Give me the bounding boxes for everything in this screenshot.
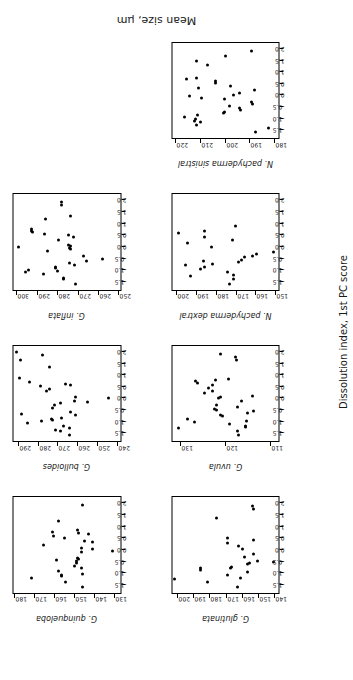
y-tick-label: 180	[14, 596, 26, 602]
y-axis: 110120130	[171, 443, 280, 451]
x-tick-label: 2.0	[116, 349, 126, 355]
y-tick-label-wrap: 130	[114, 599, 115, 600]
data-point	[198, 567, 201, 570]
y-tick-label: 140	[94, 596, 106, 602]
y-tick-label: 280	[38, 445, 50, 451]
x-tick-label: -1.5	[114, 279, 126, 285]
data-point	[214, 82, 217, 85]
y-tick-label-wrap: 190	[249, 145, 250, 146]
data-point	[210, 245, 213, 248]
data-point	[67, 262, 70, 265]
data-point	[84, 259, 87, 262]
y-tick-label-wrap: 270	[78, 296, 79, 297]
x-tick-label: -1.0	[114, 570, 126, 576]
data-point	[197, 87, 200, 90]
data-point	[176, 231, 179, 234]
x-tick-label-wrap: 0.5	[284, 83, 285, 84]
data-point	[52, 404, 55, 407]
data-point	[244, 424, 247, 427]
y-tick-label-wrap: 140	[94, 599, 95, 600]
x-tick-label: -1.5	[114, 430, 126, 436]
x-axis: -1.5-1.0-0.50.00.51.01.52.0	[279, 42, 301, 140]
x-tick-label: 0.0	[274, 92, 284, 98]
data-point	[69, 214, 72, 217]
data-point	[243, 556, 246, 559]
panel-title: N. pachyderma dextral	[179, 311, 271, 319]
data-point	[246, 412, 249, 415]
y-tick-label: 200	[225, 142, 237, 148]
x-tick-label: 1.5	[274, 209, 284, 215]
scatter-panel: N. pachyderma sinistral180190200210220-1…	[169, 40, 302, 170]
panel-title-wrap: G. bulloides	[12, 461, 121, 473]
data-point	[267, 127, 270, 130]
data-point	[39, 385, 42, 388]
data-point	[227, 377, 230, 380]
x-tick-label-wrap: -1.0	[284, 421, 285, 422]
data-point	[68, 384, 71, 387]
y-tick-label-wrap: 180	[216, 296, 217, 297]
x-tick-label-wrap: -1.0	[126, 421, 127, 422]
data-point	[239, 576, 242, 579]
x-tick-label-wrap: 2.0	[284, 502, 285, 503]
x-axis: -1.5-1.0-0.50.00.51.01.52.0	[121, 194, 143, 292]
y-tick-label: 260	[77, 445, 89, 451]
x-tick-label: 0.5	[274, 384, 284, 390]
data-point	[67, 434, 70, 437]
x-tick-label-wrap: 0.5	[284, 537, 285, 538]
data-point	[203, 236, 206, 239]
y-tick-label: 270	[78, 293, 90, 299]
data-point	[69, 411, 72, 414]
y-tick-label: 130	[180, 445, 192, 451]
data-point	[231, 278, 234, 281]
data-point	[202, 259, 205, 262]
y-tick-label: 200	[176, 293, 188, 299]
data-point	[44, 218, 47, 221]
data-point	[211, 262, 214, 265]
panel-title: G. inflata	[48, 311, 85, 319]
data-point	[232, 273, 235, 276]
data-point	[224, 54, 227, 57]
data-point	[176, 427, 179, 430]
y-tick-label: 130	[114, 596, 126, 602]
data-point	[51, 534, 54, 537]
y-tick-label-wrap: 200	[177, 599, 178, 600]
x-tick-label: 2.0	[116, 500, 126, 506]
x-tick-label: 2.0	[116, 197, 126, 203]
data-point	[194, 76, 197, 79]
x-tick-label-wrap: 1.5	[284, 514, 285, 515]
y-tick-label-wrap: 140	[274, 599, 275, 600]
y-tick-label-wrap: 120	[225, 448, 226, 449]
data-point	[62, 425, 65, 428]
data-point	[67, 426, 70, 429]
data-point	[222, 98, 225, 101]
y-tick-label: 190	[249, 142, 261, 148]
figure-x-axis-label: Dissolution index, 1st PC score	[337, 40, 349, 624]
data-point	[50, 417, 53, 420]
figure-y-axis-label: Mean size, μm	[116, 14, 196, 26]
x-tick-label-wrap: -1.0	[126, 269, 127, 270]
x-tick-label-wrap: -0.5	[284, 258, 285, 259]
x-tick-label-wrap: 2.0	[284, 199, 285, 200]
x-tick-label: 2.0	[274, 197, 284, 203]
data-point	[19, 412, 22, 415]
data-point	[91, 541, 94, 544]
x-tick-label-wrap: 1.0	[284, 374, 285, 375]
data-point	[182, 116, 185, 119]
panel-title-wrap: G. quinqueloba	[12, 612, 121, 624]
y-tick-label: 260	[98, 293, 110, 299]
y-tick-label: 220	[175, 142, 187, 148]
data-point	[195, 123, 198, 126]
x-tick-label-wrap: -0.5	[284, 409, 285, 410]
data-point	[30, 576, 33, 579]
y-tick-label-wrap: 110	[270, 448, 271, 449]
data-point	[198, 267, 201, 270]
data-point	[246, 570, 249, 573]
data-point	[243, 256, 246, 259]
x-tick-label-wrap: 0.0	[284, 246, 285, 247]
x-tick-label: 0.5	[274, 232, 284, 238]
x-tick-label-wrap: -1.5	[284, 281, 285, 282]
data-point	[77, 531, 80, 534]
panel-title-wrap: N. pachyderma dextral	[171, 309, 280, 321]
x-tick-label-wrap: 2.0	[126, 502, 127, 503]
data-point	[244, 419, 247, 422]
